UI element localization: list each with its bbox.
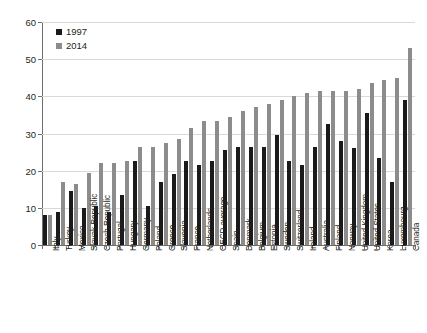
x-axis-label: Australia [322, 220, 331, 251]
legend-label-2014: 2014 [66, 41, 87, 51]
y-tick-label: 0 [31, 240, 36, 251]
x-axis-label: France [193, 226, 202, 251]
bar-group [42, 22, 55, 245]
bar-group [132, 22, 145, 245]
x-axis-label: Spain [232, 231, 241, 251]
x-axis-label: Slovak Republic [90, 194, 99, 251]
bar-2014 [228, 117, 232, 245]
bar-chart: 0102030405060 ItalyTurkeyMexicoSlovak Re… [0, 0, 427, 333]
x-axis-label: Switzerland [296, 210, 305, 251]
x-axis-label: Canada [412, 223, 421, 251]
x-axis-label: Norway [348, 224, 357, 251]
bar-group [235, 22, 248, 245]
chart-legend: 1997 2014 [56, 26, 87, 54]
bar-1997 [43, 215, 47, 245]
x-axis-label: Estonia [270, 224, 279, 251]
bar-group [274, 22, 287, 245]
x-axis-label: Sweden [283, 222, 292, 251]
legend-swatch-2014-icon [56, 43, 62, 49]
legend-swatch-1997-icon [56, 29, 62, 35]
bar-group [55, 22, 68, 245]
x-axis-label: Luxembourg [399, 206, 408, 251]
x-axis-label: Turkey [65, 227, 74, 251]
bar-group [158, 22, 171, 245]
y-tick-label: 40 [25, 91, 36, 102]
x-axis-label: Korea [386, 230, 395, 251]
bar-group [325, 22, 338, 245]
x-axis-label: United States [373, 203, 382, 251]
bar-2014 [344, 91, 348, 245]
x-axis-label: Germany [142, 218, 151, 251]
x-axis-label: United Kingdom [361, 194, 370, 251]
x-axis-label: Slovenia [180, 220, 189, 251]
bar-2014 [382, 80, 386, 245]
bar-group [171, 22, 184, 245]
x-axis-label: Denmark [245, 218, 254, 251]
bar-2014 [331, 91, 335, 245]
bar-group [68, 22, 81, 245]
y-tick-label: 10 [25, 202, 36, 213]
legend-item-1997: 1997 [56, 26, 87, 38]
legend-item-2014: 2014 [56, 40, 87, 52]
x-axis-label: Poland [155, 226, 164, 251]
x-axis-label: Greece [168, 225, 177, 251]
x-axis-label: OECD average [219, 197, 228, 251]
x-axis-label: Ireland [309, 227, 318, 251]
x-tick-mark [42, 245, 43, 249]
y-tick-label: 50 [25, 54, 36, 65]
bar-group [312, 22, 325, 245]
x-axis-label: Finland [335, 225, 344, 251]
y-tick-label: 60 [25, 17, 36, 28]
legend-label-1997: 1997 [66, 27, 87, 37]
x-axis-label: Czech Republic [103, 195, 112, 251]
bar-group [183, 22, 196, 245]
y-tick-label: 30 [25, 128, 36, 139]
x-axis-label: Portugal [116, 221, 125, 251]
bar-group [145, 22, 158, 245]
bar-group [261, 22, 274, 245]
bar-group [119, 22, 132, 245]
x-axis-label: Hungary [129, 221, 138, 251]
x-axis-label: Netherlands [206, 208, 215, 251]
x-axis-label: Belgium [258, 222, 267, 251]
bar-2014 [408, 48, 412, 245]
x-axis-label: Italy [52, 236, 61, 251]
bar-group [248, 22, 261, 245]
bar-2014 [305, 93, 309, 245]
y-tick-label: 20 [25, 165, 36, 176]
x-axis-label: Mexico [78, 226, 87, 251]
bar-group [338, 22, 351, 245]
